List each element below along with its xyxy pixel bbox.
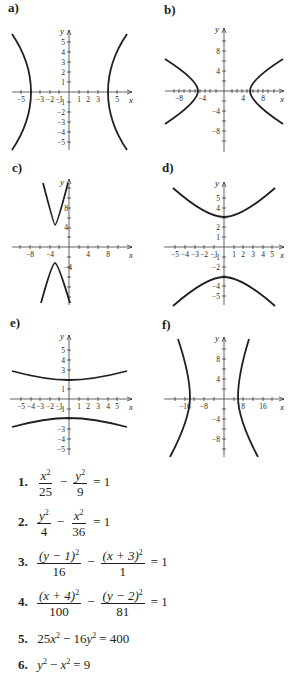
svg-text:5: 5 (115, 402, 119, 411)
svg-text:3: 3 (61, 366, 65, 375)
svg-text:4: 4 (86, 250, 90, 259)
graph-e: e) −5 −4 −3 −2 −1 1 2 3 4 5 5 4 3 (0, 305, 146, 457)
svg-text:2: 2 (86, 402, 90, 411)
svg-text:8: 8 (216, 355, 220, 364)
svg-text:−5: −5 (57, 445, 65, 454)
graph-a-plot: −5 −3 −2 −1 1 2 3 5 5 4 3 2 1 −1 −2 −3 −… (0, 0, 146, 152)
svg-text:4: 4 (106, 402, 110, 411)
svg-text:−5: −5 (171, 250, 179, 259)
equation-2: 2. y24 − x236 = 1 (18, 505, 113, 539)
svg-text:−8: −8 (26, 250, 34, 259)
svg-text:−3: −3 (36, 402, 44, 411)
svg-text:−5: −5 (57, 138, 65, 147)
svg-text:−8: −8 (212, 127, 220, 136)
svg-text:1: 1 (61, 78, 65, 87)
svg-text:−2: −2 (212, 263, 220, 272)
svg-text:−4: −4 (212, 415, 220, 424)
svg-text:−8: −8 (200, 402, 208, 411)
svg-text:−4: −4 (212, 107, 220, 116)
graph-b-plot: −8 −4 4 8 8 4 −4 −8 x y (146, 0, 292, 152)
svg-text:−16: −16 (179, 402, 191, 411)
svg-text:3: 3 (96, 95, 100, 104)
svg-text:8: 8 (106, 250, 110, 259)
equation-4: 4. (x + 4)2100 − (y − 2)281 = 1 (18, 585, 171, 619)
svg-text:2: 2 (61, 68, 65, 77)
svg-text:8: 8 (216, 47, 220, 56)
svg-text:−1: −1 (212, 253, 220, 262)
svg-text:−4: −4 (57, 435, 65, 444)
svg-text:−8: −8 (175, 94, 183, 103)
svg-text:−5: −5 (17, 95, 25, 104)
svg-text:−4: −4 (46, 250, 54, 259)
graph-c: c) −8 −4 4 8 8 4 −4 x y (0, 155, 146, 307)
svg-text:−4: −4 (64, 263, 72, 272)
svg-text:−2: −2 (200, 250, 208, 259)
svg-text:−5: −5 (212, 292, 220, 301)
svg-text:x: x (128, 250, 133, 260)
svg-text:3: 3 (251, 250, 255, 259)
svg-text:4: 4 (61, 356, 65, 365)
svg-text:8: 8 (64, 204, 68, 213)
graph-a: a) −5 −3 −2 −1 1 2 3 5 5 4 3 2 1 (0, 0, 146, 152)
svg-text:3: 3 (96, 402, 100, 411)
svg-text:−3: −3 (36, 95, 44, 104)
graph-f: f) −16 −8 8 16 8 4 −4 −8 x y (146, 305, 292, 457)
svg-text:5: 5 (115, 95, 119, 104)
svg-text:1: 1 (61, 385, 65, 394)
svg-text:−3: −3 (191, 250, 199, 259)
svg-text:−2: −2 (46, 95, 54, 104)
svg-text:4: 4 (216, 67, 220, 76)
svg-text:5: 5 (270, 250, 274, 259)
svg-text:x: x (279, 402, 284, 412)
svg-text:4: 4 (216, 375, 220, 384)
svg-text:−3: −3 (57, 118, 65, 127)
svg-text:x: x (279, 250, 284, 260)
svg-text:−4: −4 (212, 282, 220, 291)
graph-d-plot: −5 −4 −3 −2 −1 1 2 3 4 5 5 4 2 1 −1 −2 −… (146, 155, 292, 307)
svg-text:3: 3 (61, 58, 65, 67)
svg-text:−8: −8 (212, 435, 220, 444)
svg-text:y: y (59, 331, 64, 341)
svg-text:−4: −4 (57, 128, 65, 137)
svg-text:1: 1 (77, 402, 81, 411)
svg-text:−5: −5 (17, 402, 25, 411)
svg-text:2: 2 (241, 250, 245, 259)
svg-text:8: 8 (261, 94, 265, 103)
svg-text:x: x (128, 402, 133, 412)
graph-c-plot: −8 −4 4 8 8 4 −4 x y (0, 155, 146, 307)
graph-f-plot: −16 −8 8 16 8 4 −4 −8 x y (146, 305, 292, 457)
svg-text:1: 1 (232, 250, 236, 259)
svg-text:−4: −4 (181, 250, 189, 259)
equation-3: 3. (y − 1)216 − (x + 3)21 = 1 (18, 545, 171, 579)
equation-5: 5. 25x2 − 16y2 = 400 (18, 631, 132, 647)
svg-text:−4: −4 (198, 94, 206, 103)
svg-text:4: 4 (64, 223, 68, 232)
equation-1: 1. x225 − y29 = 1 (18, 465, 113, 499)
svg-text:x: x (279, 94, 284, 104)
svg-text:y: y (59, 177, 64, 187)
svg-text:16: 16 (259, 402, 267, 411)
equation-6: 6. y2 − x2 = 9 (18, 657, 93, 673)
graph-b: b) −8 −4 4 8 8 4 −4 −8 x y (146, 0, 292, 152)
svg-text:1: 1 (77, 95, 81, 104)
svg-text:8: 8 (241, 402, 245, 411)
svg-text:y: y (59, 26, 64, 36)
svg-text:5: 5 (216, 194, 220, 203)
svg-text:−1: −1 (57, 98, 65, 107)
svg-text:2: 2 (216, 223, 220, 232)
graph-d: d) −5 −4 −3 −2 −1 1 2 3 4 5 5 4 2 (146, 155, 292, 307)
svg-text:−4: −4 (27, 402, 35, 411)
svg-text:y: y (214, 178, 219, 188)
svg-text:4: 4 (61, 48, 65, 57)
svg-text:4: 4 (261, 250, 265, 259)
svg-text:−3: −3 (57, 425, 65, 434)
svg-text:−2: −2 (46, 402, 54, 411)
svg-text:y: y (214, 333, 219, 343)
svg-text:5: 5 (61, 346, 65, 355)
svg-text:2: 2 (86, 95, 90, 104)
svg-text:−1: −1 (57, 405, 65, 414)
svg-text:4: 4 (241, 94, 245, 103)
svg-text:y: y (214, 24, 219, 34)
svg-text:1: 1 (216, 233, 220, 242)
svg-text:x: x (128, 95, 133, 105)
